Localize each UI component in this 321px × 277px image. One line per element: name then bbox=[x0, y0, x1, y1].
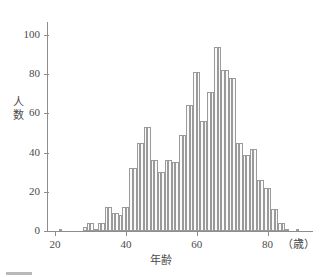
histogram-bar bbox=[285, 229, 289, 231]
x-tick-20 bbox=[55, 231, 56, 236]
x-tick-label-20: 20 bbox=[35, 238, 75, 250]
y-tick-label-40: 40 bbox=[10, 147, 40, 158]
x-axis-unit-label: （歳） bbox=[282, 238, 315, 250]
x-axis-line bbox=[47, 231, 313, 232]
histogram-bar bbox=[296, 229, 300, 231]
y-tick-label-80: 80 bbox=[10, 68, 40, 79]
y-tick-0 bbox=[44, 231, 49, 232]
plot-area bbox=[48, 25, 310, 231]
x-tick-80 bbox=[268, 231, 269, 236]
histogram-figure: 020406080100 20406080 人数 年齢 （歳） bbox=[0, 0, 321, 277]
footer-rule bbox=[6, 272, 32, 275]
y-tick-label-20: 20 bbox=[10, 186, 40, 197]
x-axis-title: 年齢 bbox=[0, 254, 321, 266]
y-tick-label-0: 0 bbox=[10, 225, 40, 236]
y-axis-title: 人数 bbox=[12, 96, 25, 122]
histogram-bar bbox=[59, 229, 63, 231]
x-tick-label-40: 40 bbox=[106, 238, 146, 250]
x-tick-40 bbox=[126, 231, 127, 236]
x-tick-60 bbox=[197, 231, 198, 236]
x-tick-label-60: 60 bbox=[177, 238, 217, 250]
y-tick-label-100: 100 bbox=[10, 29, 40, 40]
